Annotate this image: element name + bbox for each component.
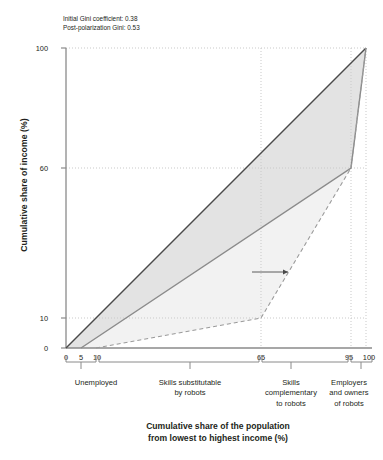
chart-plot-svg [0, 0, 383, 460]
lorenz-curve-chart: Initial Gini coefficient: 0.38 Post-pola… [0, 0, 383, 460]
category-brackets [66, 355, 372, 369]
